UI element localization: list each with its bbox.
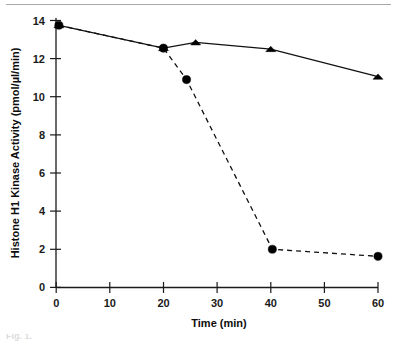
y-tick-label-8: 8 xyxy=(39,129,45,141)
y-tick-label-0: 0 xyxy=(39,281,45,293)
x-tick-label-30: 30 xyxy=(211,297,223,309)
x-tick-labels: 0 10 20 30 40 50 60 xyxy=(53,297,384,309)
x-tick-label-10: 10 xyxy=(104,297,116,309)
y-tick-label-6: 6 xyxy=(39,167,45,179)
data-point-circle[interactable] xyxy=(268,245,276,253)
y-tick-label-2: 2 xyxy=(39,243,45,255)
x-tick-label-0: 0 xyxy=(53,297,59,309)
y-axis-title-part2: l/min) xyxy=(9,47,21,77)
y-axis-title-part1: Histone H1 Kinase Activity (pmol/ xyxy=(9,83,21,258)
x-tick-label-20: 20 xyxy=(157,297,169,309)
x-tick-label-60: 60 xyxy=(372,297,384,309)
y-tick-label-12: 12 xyxy=(33,53,45,65)
bottom-caption-strip: Fig. 1. xyxy=(0,334,396,343)
chart-canvas: 14 12 10 8 6 4 2 0 0 10 20 30 40 50 xyxy=(0,0,396,343)
x-tick-label-40: 40 xyxy=(265,297,277,309)
figure-root: 14 12 10 8 6 4 2 0 0 10 20 30 40 50 xyxy=(0,0,396,343)
x-axis-title: Time (min) xyxy=(191,317,247,329)
data-point-circle[interactable] xyxy=(55,21,63,29)
x-tick-label-50: 50 xyxy=(318,297,330,309)
data-point-circle[interactable] xyxy=(159,44,167,52)
data-point-circle[interactable] xyxy=(374,252,382,260)
axes-group xyxy=(56,18,378,288)
y-tick-label-10: 10 xyxy=(33,91,45,103)
y-axis-title: Histone H1 Kinase Activity (pmol/µl/min) xyxy=(9,47,21,258)
data-point-triangle[interactable] xyxy=(373,74,383,79)
y-tick-labels: 14 12 10 8 6 4 2 0 xyxy=(33,15,46,294)
series-line-dashed-circle-series xyxy=(59,25,378,256)
y-tick-label-4: 4 xyxy=(39,205,46,217)
y-tick-label-14: 14 xyxy=(33,15,46,27)
series-line-solid-triangle-series xyxy=(59,25,378,76)
data-point-circle[interactable] xyxy=(182,76,190,84)
figure-caption-fragment: Fig. 1. xyxy=(6,334,32,341)
series-layer xyxy=(54,21,383,260)
